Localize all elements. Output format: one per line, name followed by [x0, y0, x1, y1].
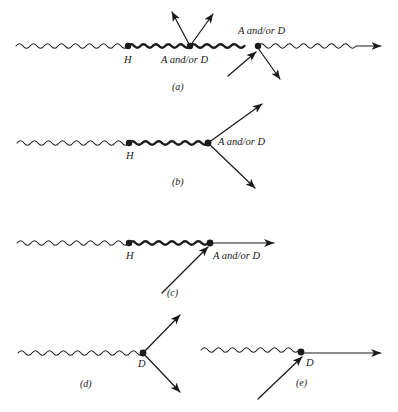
panel-d-wavy-in	[18, 351, 144, 356]
panel-e-label-vertex: D	[306, 358, 314, 369]
panel-c-caption: (c)	[167, 288, 178, 298]
panel-a-wavy-dressed-1	[128, 44, 190, 47]
panel-a-wavy-dressed-2	[190, 44, 244, 48]
panel-b-caption: (b)	[172, 177, 184, 187]
panel-b-wavy-in	[17, 141, 129, 146]
panel-c-label-vertex: A and/or D	[213, 251, 260, 262]
panel-d-label-vertex: D	[138, 359, 146, 370]
panel-c-label-h: H	[126, 251, 134, 262]
panel-a-arrow-up-right	[190, 14, 213, 46]
panel-b-label-vertex: A and/or D	[218, 137, 265, 148]
panel-a-label-h: H	[124, 55, 132, 66]
panel-a-vertex-h	[125, 43, 131, 49]
panel-b-vertex-right	[205, 140, 212, 147]
panel-e-caption: (e)	[296, 378, 307, 388]
panel-a-arrow-in-lower-left	[228, 52, 256, 76]
panel-c-vertex-h	[126, 240, 132, 246]
panel-e-vertex-d	[298, 349, 305, 356]
panel-b-label-h: H	[126, 151, 134, 162]
panel-a-arrow-up-left	[172, 12, 190, 46]
panel-d-caption: (d)	[80, 379, 92, 389]
panel-a-label-right: A and/or D	[238, 26, 285, 37]
panel-b-vertex-h	[126, 140, 132, 146]
panel-b-arrow-lower-right	[208, 143, 255, 188]
panel-a-wavy-in	[16, 44, 128, 49]
panel-a-arrow-out-lower-right	[258, 48, 280, 79]
panel-c-wavy-in	[17, 241, 129, 246]
panel-a-vertex-right	[255, 43, 261, 49]
feynman-diagram-figure: H A and/or D A and/or D (a) H A and/or D…	[0, 0, 398, 412]
panel-b-wavy-dressed	[129, 141, 208, 145]
panel-a-caption: (a)	[172, 82, 184, 92]
panel-c-vertex-right	[207, 240, 214, 247]
panel-a-wavy-out	[258, 44, 381, 49]
panel-d-vertex-d	[140, 350, 147, 357]
panel-c-wavy-dressed	[129, 241, 208, 245]
panel-a-label-mid: A and/or D	[161, 55, 208, 66]
panel-e-wavy-in	[201, 348, 299, 353]
panel-a-vertex-mid	[187, 43, 193, 49]
panel-d-arrow-upper-right	[143, 315, 180, 353]
panel-d-arrow-lower-right	[143, 353, 180, 392]
